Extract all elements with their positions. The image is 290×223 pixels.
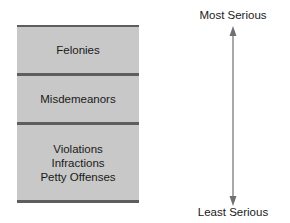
category-label: Petty Offenses — [40, 170, 115, 184]
most-serious-label: Most Serious — [178, 9, 288, 21]
category-felonies: Felonies — [17, 27, 139, 73]
bottom-border — [17, 200, 139, 203]
category-misdemeanors: Misdemeanors — [17, 76, 139, 122]
category-minor-offenses: Violations Infractions Petty Offenses — [17, 125, 139, 200]
category-label: Misdemeanors — [40, 92, 115, 106]
least-serious-label: Least Serious — [178, 206, 288, 218]
offense-severity-stack: Felonies Misdemeanors Violations Infract… — [17, 25, 139, 201]
category-label: Infractions — [40, 156, 115, 170]
category-label: Felonies — [56, 43, 99, 57]
double-headed-arrow-icon — [226, 26, 240, 206]
category-label: Violations — [40, 142, 115, 156]
